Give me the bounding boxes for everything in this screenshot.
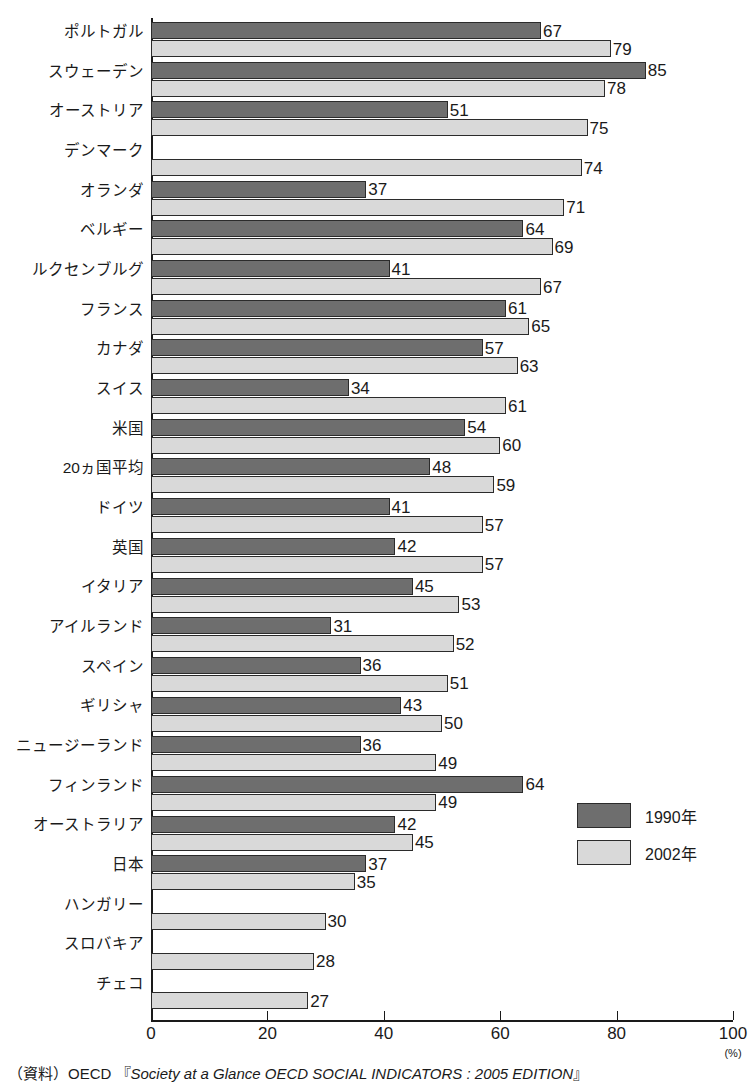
bar-1990: 51 (151, 101, 448, 118)
bar-row: 米国5460 (151, 419, 733, 459)
bar-2002: 71 (151, 199, 564, 216)
bar-row: ベルギー6469 (151, 220, 733, 260)
bar-value-label: 37 (368, 855, 387, 872)
bar-1990: 48 (151, 458, 430, 475)
bar-2002: 51 (151, 675, 448, 692)
bar-2002: 57 (151, 556, 483, 573)
bar-value-label: 54 (467, 419, 486, 436)
x-tick-label: 60 (491, 1024, 510, 1044)
bar-row: ニュージーランド3649 (151, 736, 733, 776)
x-tick-label: 0 (146, 1024, 155, 1044)
category-label: オランダ (0, 183, 144, 199)
bar-value-label: 49 (438, 754, 457, 771)
bar-value-label: 31 (333, 617, 352, 634)
bar-row: 20ヵ国平均4859 (151, 458, 733, 498)
bar-1990: 36 (151, 736, 361, 753)
bar-value-label: 74 (584, 159, 603, 176)
bar-value-label: 43 (403, 697, 422, 714)
bar-2002: 28 (151, 953, 314, 970)
category-label: ギリシャ (0, 698, 144, 714)
category-label: オーストラリア (0, 817, 144, 833)
x-axis-unit-label: (%) (724, 1047, 741, 1059)
bar-value-label: 36 (363, 657, 382, 674)
legend-item: 2002年 (577, 840, 727, 865)
bar-2002: 60 (151, 437, 500, 454)
bar-value-label: 63 (520, 357, 539, 374)
bar-1990: 31 (151, 617, 331, 634)
legend-swatch-y1990 (577, 803, 631, 828)
bar-1990: 41 (151, 498, 390, 515)
bar-1990: 42 (151, 816, 395, 833)
bar-value-label: 51 (450, 101, 469, 118)
category-label: スロバキア (0, 936, 144, 952)
bar-value-label: 71 (566, 199, 585, 216)
bar-1990: 54 (151, 419, 465, 436)
bar-row: ルクセンブルグ4167 (151, 260, 733, 300)
legend-label: 1990年 (645, 804, 697, 828)
category-label: ニュージーランド (0, 738, 144, 754)
bar-1990: 36 (151, 657, 361, 674)
bar-2002: 67 (151, 278, 541, 295)
bar-value-label: 42 (397, 538, 416, 555)
category-label: ベルギー (0, 222, 144, 238)
bar-value-label: 51 (450, 675, 469, 692)
bar-value-label: 60 (502, 437, 521, 454)
bar-2002: 79 (151, 40, 611, 57)
source-prefix: （資料）OECD 『 (8, 1065, 131, 1082)
category-label: オーストリア (0, 103, 144, 119)
bar-value-label: 64 (525, 220, 544, 237)
category-label: ポルトガル (0, 24, 144, 40)
bar-value-label: 61 (508, 300, 527, 317)
bar-value-label: 57 (485, 339, 504, 356)
bar-1990: 34 (151, 379, 349, 396)
bar-value-label: 48 (432, 458, 451, 475)
bar-1990: 41 (151, 260, 390, 277)
bar-1990: 85 (151, 62, 646, 79)
bar-row: ハンガリー30 (151, 895, 733, 935)
category-label: チェコ (0, 976, 144, 992)
bar-value-label: 27 (310, 992, 329, 1009)
bar-row: ギリシャ4350 (151, 697, 733, 737)
bar-value-label: 67 (543, 22, 562, 39)
bar-value-label: 53 (461, 596, 480, 613)
legend-swatch-y2002 (577, 840, 631, 865)
bar-value-label: 34 (351, 379, 370, 396)
category-label: 20ヵ国平均 (0, 460, 144, 476)
bar-1990: 64 (151, 220, 523, 237)
bar-2002: 53 (151, 596, 459, 613)
x-axis-line (151, 1020, 733, 1022)
bar-2002: 27 (151, 992, 308, 1009)
bar-2002: 49 (151, 794, 436, 811)
x-tick (733, 1011, 734, 1020)
bar-row: オーストリア5175 (151, 101, 733, 141)
bar-2002: 30 (151, 913, 326, 930)
bar-2002: 78 (151, 80, 605, 97)
bar-1990: 64 (151, 776, 523, 793)
source-suffix: 』 (573, 1065, 588, 1082)
bar-2002: 61 (151, 397, 506, 414)
bar-value-label: 64 (525, 776, 544, 793)
bar-row: オランダ3771 (151, 181, 733, 221)
category-label: フランス (0, 302, 144, 318)
bar-value-label: 42 (397, 816, 416, 833)
bar-1990: 45 (151, 578, 413, 595)
bar-2002: 74 (151, 159, 582, 176)
bar-value-label: 45 (415, 834, 434, 851)
category-label: イタリア (0, 579, 144, 595)
legend-label: 2002年 (645, 841, 697, 865)
bar-row: スペイン3651 (151, 657, 733, 697)
bar-row: フランス6165 (151, 300, 733, 340)
bar-2002: 50 (151, 715, 442, 732)
bar-value-label: 65 (531, 318, 550, 335)
bar-value-label: 57 (485, 556, 504, 573)
category-label: スイス (0, 381, 144, 397)
bar-1990: 42 (151, 538, 395, 555)
bar-2002: 52 (151, 635, 454, 652)
bar-row: 英国4257 (151, 538, 733, 578)
bar-2002: 69 (151, 238, 553, 255)
bar-2002: 57 (151, 516, 483, 533)
chart-title (120, 0, 680, 3)
category-label: フィンランド (0, 778, 144, 794)
bar-value-label: 78 (607, 80, 626, 97)
bar-value-label: 59 (496, 476, 515, 493)
